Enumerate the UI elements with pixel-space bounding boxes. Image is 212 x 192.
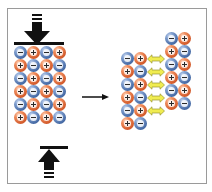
positive-ion (53, 98, 66, 111)
up-arrow-icon (36, 148, 62, 180)
minus-icon (168, 87, 175, 94)
negative-ion (14, 98, 27, 111)
plus-icon (181, 87, 188, 94)
positive-ion (134, 52, 147, 65)
positive-ion (53, 46, 66, 59)
negative-ion (121, 52, 134, 65)
positive-ion (40, 59, 53, 72)
minus-icon (137, 94, 144, 101)
double-headed-arrow-icon (147, 54, 165, 64)
positive-ion (165, 45, 178, 58)
negative-ion (121, 104, 134, 117)
plus-icon (30, 75, 37, 82)
positive-ion (40, 111, 53, 124)
right-lattice-left-block (121, 52, 147, 130)
negative-ion (53, 111, 66, 124)
positive-ion (40, 85, 53, 98)
minus-icon (17, 49, 24, 56)
minus-icon (56, 88, 63, 95)
plus-icon (168, 74, 175, 81)
plus-icon (43, 88, 50, 95)
double-headed-arrow-icon (147, 93, 165, 103)
double-headed-arrow-icon (147, 67, 165, 77)
plus-icon (124, 68, 131, 75)
minus-icon (124, 81, 131, 88)
top-compression-plate (14, 42, 64, 45)
minus-icon (43, 49, 50, 56)
negative-ion (121, 78, 134, 91)
minus-icon (137, 120, 144, 127)
plus-icon (124, 94, 131, 101)
negative-ion (14, 46, 27, 59)
plus-icon (137, 81, 144, 88)
negative-ion (53, 85, 66, 98)
double-headed-arrow-icon (147, 106, 165, 116)
minus-icon (56, 62, 63, 69)
plus-icon (17, 62, 24, 69)
positive-ion (53, 72, 66, 85)
negative-ion (40, 46, 53, 59)
minus-icon (181, 100, 188, 107)
negative-ion (134, 91, 147, 104)
negative-ion (178, 71, 191, 84)
positive-ion (121, 65, 134, 78)
negative-ion (134, 65, 147, 78)
positive-ion (134, 78, 147, 91)
positive-ion (121, 91, 134, 104)
positive-ion (27, 46, 40, 59)
positive-ion (165, 71, 178, 84)
negative-ion (14, 72, 27, 85)
minus-icon (43, 75, 50, 82)
positive-ion (14, 85, 27, 98)
minus-icon (124, 107, 131, 114)
positive-ion (14, 59, 27, 72)
negative-ion (178, 97, 191, 110)
plus-icon (30, 49, 37, 56)
repulsion-arrows (147, 52, 165, 118)
minus-icon (30, 88, 37, 95)
plus-icon (137, 55, 144, 62)
left-lattice (14, 46, 66, 124)
negative-ion (134, 117, 147, 130)
plus-icon (56, 75, 63, 82)
positive-ion (178, 32, 191, 45)
negative-ion (40, 72, 53, 85)
minus-icon (30, 114, 37, 121)
plus-icon (181, 35, 188, 42)
right-arrow-icon (82, 93, 110, 101)
plus-icon (43, 114, 50, 121)
negative-ion (165, 58, 178, 71)
negative-ion (40, 98, 53, 111)
plus-icon (168, 48, 175, 55)
minus-icon (168, 61, 175, 68)
plus-icon (124, 120, 131, 127)
positive-ion (121, 117, 134, 130)
plus-icon (181, 61, 188, 68)
minus-icon (181, 74, 188, 81)
negative-ion (27, 85, 40, 98)
minus-icon (43, 101, 50, 108)
double-headed-arrow-icon (147, 80, 165, 90)
positive-ion (27, 72, 40, 85)
negative-ion (53, 59, 66, 72)
plus-icon (17, 88, 24, 95)
negative-ion (27, 59, 40, 72)
minus-icon (17, 101, 24, 108)
positive-ion (178, 58, 191, 71)
negative-ion (178, 45, 191, 58)
positive-ion (134, 104, 147, 117)
minus-icon (17, 75, 24, 82)
plus-icon (43, 62, 50, 69)
negative-ion (165, 32, 178, 45)
minus-icon (181, 48, 188, 55)
plus-icon (137, 107, 144, 114)
positive-ion (178, 84, 191, 97)
positive-ion (27, 98, 40, 111)
minus-icon (56, 114, 63, 121)
plus-icon (30, 101, 37, 108)
plus-icon (17, 114, 24, 121)
minus-icon (124, 55, 131, 62)
positive-ion (14, 111, 27, 124)
plus-icon (56, 101, 63, 108)
plus-icon (56, 49, 63, 56)
